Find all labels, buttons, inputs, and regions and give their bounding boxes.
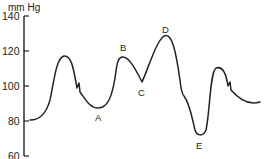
y-tick-80: 80 [8,115,20,127]
point-label-b: B [120,42,126,53]
y-axis-ticks [24,16,29,156]
y-tick-140: 140 [2,10,20,22]
pressure-waveform [30,35,260,134]
pressure-chart: mm Hg 140 120 100 80 60 A B C D E [0,0,265,159]
y-tick-100: 100 [2,80,20,92]
point-label-a: A [95,112,102,123]
point-label-c: C [138,87,145,98]
y-tick-60: 60 [8,150,20,159]
y-tick-120: 120 [2,45,20,57]
point-label-e: E [196,140,202,151]
point-label-d: D [162,24,169,35]
